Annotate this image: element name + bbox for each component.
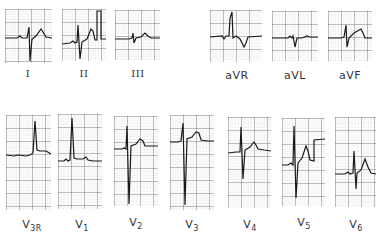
ecg-panel-V5: [282, 118, 325, 206]
lead-label-V3: V3: [182, 218, 202, 233]
ecg-panel-aVL: [272, 11, 318, 61]
lead-label-V4: V4: [240, 218, 260, 233]
ecg-tracing-III: [115, 10, 160, 60]
lead-label-I: I: [20, 68, 36, 79]
ecg-tracing-II: [62, 9, 106, 61]
ecg-tracing-V4: [228, 117, 271, 208]
ecg-tracing-V6: [335, 117, 376, 207]
ecg-tracing-V3R: [6, 115, 51, 210]
ecg-panel-V1: [58, 114, 102, 209]
ecg-panel-V6: [335, 117, 376, 207]
ecg-panel-I: [5, 9, 52, 63]
lead-label-V1: V1: [72, 218, 92, 233]
ecg-tracing-V2: [114, 116, 158, 206]
lead-label-V5: V5: [294, 216, 314, 231]
lead-label-V3R: V3R: [18, 218, 46, 233]
ecg-panel-V4: [228, 117, 271, 208]
ecg-tracing-V5: [282, 118, 325, 206]
ecg-panel-II: [62, 9, 106, 61]
lead-label-aVR: aVR: [222, 69, 252, 82]
ecg-panel-aVF: [328, 11, 372, 61]
lead-label-V6: V6: [346, 218, 366, 233]
ecg-panel-aVR: [210, 10, 262, 62]
lead-label-aVL: aVL: [280, 69, 310, 82]
ecg-panel-V3: [170, 115, 214, 210]
ecg-tracing-V1: [58, 114, 102, 209]
lead-label-II: II: [76, 68, 92, 79]
ecg-panel-V3R: [6, 115, 51, 210]
lead-label-III: III: [128, 68, 148, 79]
ecg-tracing-aVL: [272, 11, 318, 61]
ecg-tracing-V3: [170, 115, 214, 210]
ecg-tracing-I: [5, 9, 52, 63]
ecg-tracing-aVF: [328, 11, 372, 61]
lead-label-aVF: aVF: [335, 69, 365, 82]
ecg-panel-V2: [114, 116, 158, 206]
ecg-tracing-aVR: [210, 10, 262, 62]
lead-label-V2: V2: [126, 216, 146, 231]
ecg-panel-III: [115, 10, 160, 60]
